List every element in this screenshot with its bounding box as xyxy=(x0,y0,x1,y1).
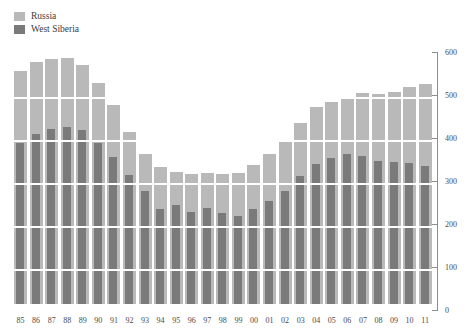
bar-series-container xyxy=(14,40,432,304)
x-axis-tick-label: 89 xyxy=(76,316,89,325)
bar-group xyxy=(14,40,27,304)
x-axis-tick-label: 90 xyxy=(92,316,105,325)
bar-west-siberia xyxy=(156,209,164,304)
bar-west-siberia xyxy=(218,213,226,304)
x-axis-tick-label: 88 xyxy=(61,316,74,325)
y-axis-tick xyxy=(432,95,438,96)
bar-west-siberia xyxy=(109,157,117,304)
legend-item-west-siberia: West Siberia xyxy=(14,23,79,35)
legend-label-west-siberia: West Siberia xyxy=(31,23,79,35)
bar-group xyxy=(185,40,198,304)
bar-west-siberia xyxy=(47,129,55,304)
bar-group xyxy=(356,40,369,304)
bar-west-siberia xyxy=(94,143,102,304)
bar-group xyxy=(30,40,43,304)
bar-group xyxy=(247,40,260,304)
x-axis-tick-label: 00 xyxy=(247,316,260,325)
y-axis-tick-label: 500 xyxy=(445,91,457,100)
x-axis-tick-label: 93 xyxy=(139,316,152,325)
legend-swatch-russia xyxy=(14,12,25,21)
bar-group xyxy=(232,40,245,304)
y-axis-tick-label: 100 xyxy=(445,263,457,272)
y-axis-tick xyxy=(432,52,438,53)
bar-west-siberia xyxy=(234,216,242,304)
x-axis-tick-label: 07 xyxy=(356,316,369,325)
bar-west-siberia xyxy=(312,164,320,304)
bar-group xyxy=(45,40,58,304)
x-axis-tick-label: 08 xyxy=(372,316,385,325)
bar-west-siberia xyxy=(172,205,180,304)
x-axis-labels: 8586878889909192939495969798990001020304… xyxy=(14,316,432,325)
bar-west-siberia xyxy=(327,158,335,304)
bar-west-siberia xyxy=(141,191,149,304)
y-axis-tick-label: 300 xyxy=(445,177,457,186)
legend-label-russia: Russia xyxy=(31,10,56,22)
bar-west-siberia xyxy=(63,127,71,304)
bar-west-siberia xyxy=(405,163,413,304)
bar-group xyxy=(403,40,416,304)
bar-group xyxy=(372,40,385,304)
bar-group xyxy=(325,40,338,304)
y-axis-tick-label: 0 xyxy=(445,306,449,315)
bar-group xyxy=(107,40,120,304)
x-axis-tick-label: 91 xyxy=(107,316,120,325)
y-axis-tick xyxy=(432,181,438,182)
bar-west-siberia xyxy=(374,161,382,304)
bar-group xyxy=(216,40,229,304)
plot-area xyxy=(14,40,432,312)
x-axis-tick-label: 01 xyxy=(263,316,276,325)
bar-west-siberia xyxy=(358,156,366,304)
bar-west-siberia xyxy=(265,201,273,304)
bar-west-siberia xyxy=(78,130,86,304)
bar-group xyxy=(123,40,136,304)
bar-west-siberia xyxy=(32,134,40,304)
y-axis-tick xyxy=(432,267,438,268)
x-axis-tick-label: 11 xyxy=(419,316,432,325)
bar-chart: Russia West Siberia 0100200300400500600 … xyxy=(0,0,474,335)
x-axis-tick-label: 05 xyxy=(325,316,338,325)
y-axis: 0100200300400500600 xyxy=(437,45,474,320)
bar-group xyxy=(154,40,167,304)
bar-west-siberia xyxy=(421,166,429,304)
legend-item-russia: Russia xyxy=(14,10,79,22)
bar-group xyxy=(92,40,105,304)
bar-west-siberia xyxy=(203,208,211,304)
y-axis-tick-label: 600 xyxy=(445,48,457,57)
bar-west-siberia xyxy=(187,212,195,304)
y-axis-tick xyxy=(432,310,438,311)
y-axis-tick xyxy=(432,224,438,225)
bar-group xyxy=(341,40,354,304)
bar-west-siberia xyxy=(281,191,289,304)
bar-west-siberia xyxy=(125,175,133,304)
bar-west-siberia xyxy=(16,143,24,304)
y-axis-tick xyxy=(432,138,438,139)
x-axis-tick-label: 86 xyxy=(30,316,43,325)
x-axis-tick-label: 99 xyxy=(232,316,245,325)
bar-group xyxy=(263,40,276,304)
bar-group xyxy=(294,40,307,304)
x-axis-tick-label: 97 xyxy=(201,316,214,325)
y-axis-tick-label: 400 xyxy=(445,134,457,143)
bar-group xyxy=(419,40,432,304)
x-axis-tick-label: 98 xyxy=(216,316,229,325)
x-axis-tick-label: 06 xyxy=(341,316,354,325)
chart-legend: Russia West Siberia xyxy=(14,10,79,36)
x-axis-tick-label: 02 xyxy=(279,316,292,325)
x-axis-tick-label: 10 xyxy=(403,316,416,325)
x-axis-tick-label: 92 xyxy=(123,316,136,325)
bar-group xyxy=(139,40,152,304)
bar-group xyxy=(388,40,401,304)
bar-west-siberia xyxy=(296,176,304,304)
y-axis-tick-label: 200 xyxy=(445,220,457,229)
bar-group xyxy=(170,40,183,304)
x-axis-tick-label: 85 xyxy=(14,316,27,325)
x-axis-tick-label: 94 xyxy=(154,316,167,325)
bar-west-siberia xyxy=(390,162,398,304)
x-axis-tick-label: 04 xyxy=(310,316,323,325)
bar-west-siberia xyxy=(343,154,351,304)
bar-group xyxy=(76,40,89,304)
x-axis-tick-label: 03 xyxy=(294,316,307,325)
bar-group xyxy=(61,40,74,304)
x-axis-tick-label: 95 xyxy=(170,316,183,325)
x-axis-tick-label: 96 xyxy=(185,316,198,325)
